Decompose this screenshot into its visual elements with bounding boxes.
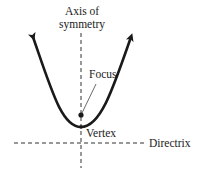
axis-label-line1: Axis of [65,5,99,17]
vertex-label: Vertex [86,127,116,139]
directrix-label: Directrix [149,137,191,149]
vertex-point [79,125,83,129]
focus-point [78,112,83,117]
axis-label-line2: symmetry [59,18,105,31]
focus-leader-line [82,84,96,113]
focus-label: Focus [89,68,117,80]
parabola-diagram: Axis of symmetry Focus Vertex Directrix [0,0,198,184]
